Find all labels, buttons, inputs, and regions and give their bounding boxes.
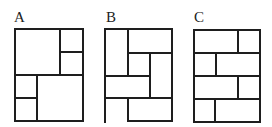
figure-c-grid [194, 30, 260, 122]
figure-a-grid [15, 29, 83, 121]
grid-figures-diagram: A B C [0, 0, 272, 127]
figure-b-grid [105, 29, 172, 122]
figure-c-label: C [194, 9, 204, 25]
figure-b: B [105, 9, 172, 122]
figure-a-label: A [14, 9, 25, 25]
figure-c: C [194, 9, 260, 122]
figure-b-label: B [106, 9, 116, 25]
figure-a: A [14, 9, 83, 121]
